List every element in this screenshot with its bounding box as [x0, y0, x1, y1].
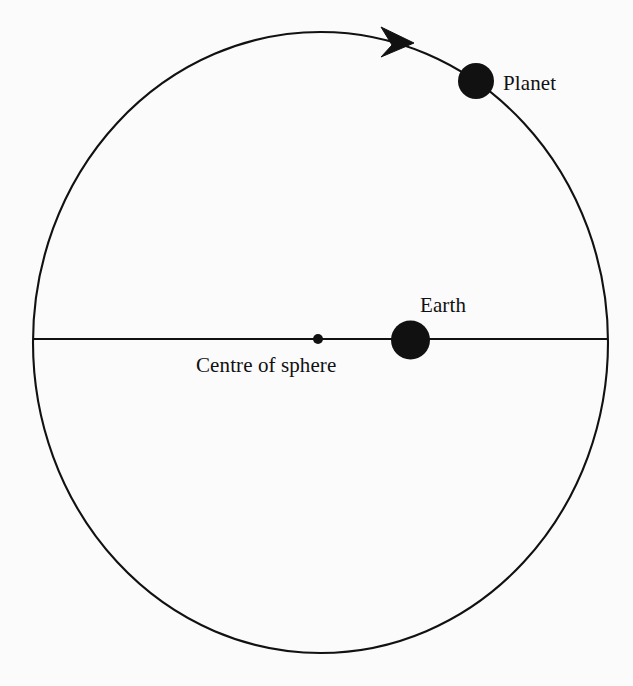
- diagram-canvas: Planet Earth Centre of sphere: [0, 0, 633, 686]
- planet-body: [458, 63, 494, 99]
- centre-of-sphere-dot: [313, 334, 323, 344]
- centre-of-sphere-label: Centre of sphere: [196, 353, 336, 377]
- earth-label: Earth: [420, 293, 466, 317]
- planet-label: Planet: [503, 71, 556, 95]
- celestial-sphere-diagram: Planet Earth Centre of sphere: [0, 0, 633, 686]
- earth-body: [391, 321, 430, 360]
